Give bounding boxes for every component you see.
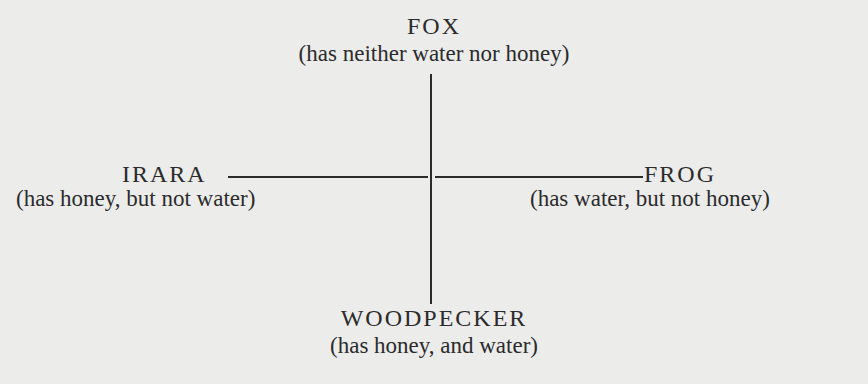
- woodpecker-label: WOODPECKER: [330, 304, 538, 332]
- horizontal-axis-line-right: [435, 176, 643, 178]
- fox-description: (has neither water nor honey): [299, 40, 570, 68]
- diagram-canvas: FOX (has neither water nor honey) IRARA …: [0, 0, 868, 384]
- frog-description: (has water, but not honey): [530, 185, 770, 213]
- frog-label: FROG: [644, 160, 716, 188]
- vertical-axis-line: [430, 74, 432, 304]
- irara-description: (has honey, but not water): [16, 185, 255, 213]
- irara-label: IRARA: [122, 160, 207, 188]
- horizontal-axis-line-left: [228, 176, 428, 178]
- node-fox: FOX (has neither water nor honey): [299, 12, 570, 68]
- node-woodpecker: WOODPECKER (has honey, and water): [330, 304, 538, 360]
- woodpecker-description: (has honey, and water): [330, 332, 538, 360]
- fox-label: FOX: [299, 12, 570, 40]
